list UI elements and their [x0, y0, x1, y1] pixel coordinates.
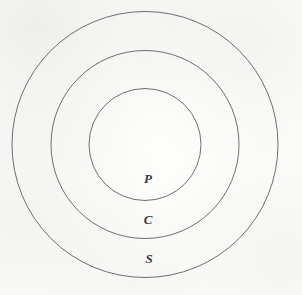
diagram-canvas: P C S — [0, 0, 302, 295]
label-outer-s: S — [145, 252, 152, 265]
outer-circle-s — [12, 12, 278, 278]
middle-circle-c — [51, 51, 239, 239]
label-inner-p: P — [144, 172, 152, 185]
label-middle-c: C — [144, 213, 153, 226]
